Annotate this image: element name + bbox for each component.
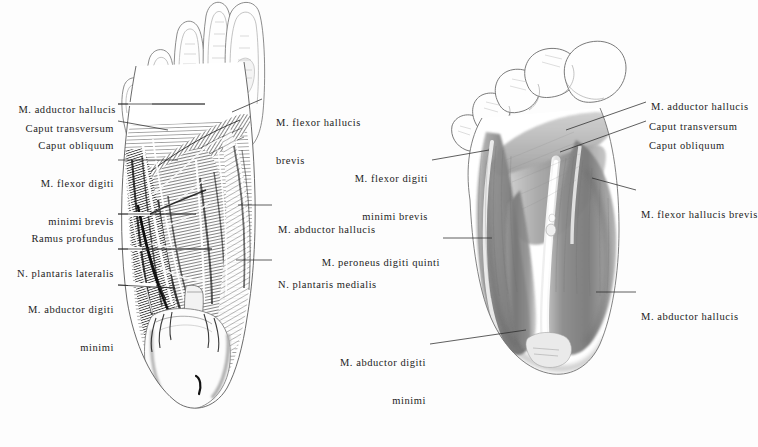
label-caput-obliquum-right: Caput obliquum <box>649 115 758 165</box>
label-line-1: M. abductor digiti <box>0 304 114 317</box>
label-m-flexor-digiti-minimi-brevis-right: M. flexor digiti minimi brevis <box>300 148 428 236</box>
label-m-flexor-hallucis-brevis-right: M. flexor hallucis brevis <box>641 184 758 234</box>
label-line-1: Caput obliquum <box>0 140 114 153</box>
label-line-1: M. peroneus digiti quinti <box>290 257 440 270</box>
right-foot-illustration <box>452 41 635 390</box>
label-line-1: M. flexor hallucis brevis <box>641 209 758 222</box>
label-line-1: M. flexor digiti <box>300 173 428 186</box>
anatomical-plate: M. adductor hallucis Caput transversum C… <box>0 0 758 447</box>
label-m-abductor-hallucis-right: M. abductor hallucis <box>641 286 758 336</box>
left-foot-illustration <box>110 2 270 430</box>
label-line-2: minimi <box>298 395 426 408</box>
label-m-abductor-digiti-minimi-left: M. abductor digiti minimi <box>0 279 114 367</box>
label-line-1: M. abductor digiti <box>298 357 426 370</box>
label-line-2: minimi brevis <box>300 211 428 224</box>
label-line-1: M. abductor hallucis <box>641 311 758 324</box>
right-foot-body <box>455 100 635 390</box>
label-line-2: minimi <box>0 342 114 355</box>
label-m-peroneus-digiti-quinti-right: M. peroneus digiti quinti <box>290 232 440 282</box>
label-m-abductor-digiti-minimi-right: M. abductor digiti minimi <box>298 332 426 420</box>
label-line-1: Caput obliquum <box>649 140 758 153</box>
label-line-1: M. flexor digiti <box>0 178 114 191</box>
left-foot-body <box>110 50 270 430</box>
label-line-1: M. flexor hallucis <box>276 117 416 130</box>
